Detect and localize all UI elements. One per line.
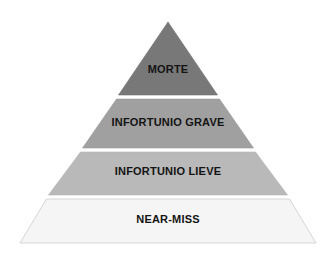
pyramid-level-2-shape [83, 99, 254, 148]
pyramid-diagram: MORTE INFORTUNIO GRAVE INFORTUNIO LIEVE … [0, 0, 336, 265]
pyramid-level-3-shape [49, 152, 288, 195]
pyramid-shape-group [0, 0, 336, 265]
pyramid-level-4-shape [20, 199, 316, 243]
pyramid-level-1-shape [119, 22, 218, 95]
